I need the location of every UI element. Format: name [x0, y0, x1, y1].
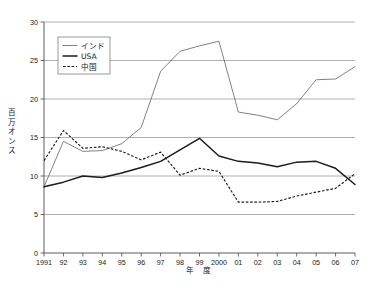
y-tick-label: 15	[30, 133, 38, 142]
x-tick-label: 2000	[211, 258, 227, 267]
chart-container: 百万オンス 051015202530 199192939495969798992…	[0, 0, 375, 292]
x-tick-label: 1991	[36, 258, 52, 267]
y-tick-label: 0	[34, 249, 38, 258]
y-tick-label: 5	[34, 210, 38, 219]
y-tick-labels: 051015202530	[30, 18, 38, 258]
legend-label-china: 中国	[81, 62, 97, 72]
x-tick-label: 93	[79, 258, 87, 267]
x-tick-label: 05	[312, 258, 320, 267]
x-tick-label: 92	[59, 258, 67, 267]
x-tick-label: 06	[332, 258, 340, 267]
x-tick-label: 94	[98, 258, 106, 267]
x-tick-label: 95	[118, 258, 126, 267]
x-tick-label: 01	[234, 258, 242, 267]
x-tick-label: 96	[137, 258, 145, 267]
x-tick-label: 03	[273, 258, 281, 267]
y-tick-label: 25	[30, 56, 38, 65]
x-tick-label: 02	[254, 258, 262, 267]
x-tick-label: 07	[351, 258, 359, 267]
y-tick-label: 30	[30, 18, 38, 27]
y-axis-title: 百万オンス	[6, 108, 17, 156]
series-line-china	[44, 131, 355, 203]
y-tick-label: 10	[30, 172, 38, 181]
legend: インド USA 中国	[58, 37, 110, 74]
series-line-usa	[44, 138, 355, 187]
x-tick-label: 98	[176, 258, 184, 267]
x-axis-title: 年 度	[186, 265, 212, 275]
line-chart: 051015202530 199192939495969798992000010…	[0, 0, 375, 292]
x-tick-label: 97	[157, 258, 165, 267]
y-tick-marks	[41, 22, 45, 253]
y-tick-label: 20	[30, 95, 38, 104]
legend-label-usa: USA	[81, 52, 98, 61]
x-tick-label: 04	[293, 258, 301, 267]
x-tick-marks	[44, 253, 355, 257]
legend-label-india: インド	[81, 42, 105, 51]
